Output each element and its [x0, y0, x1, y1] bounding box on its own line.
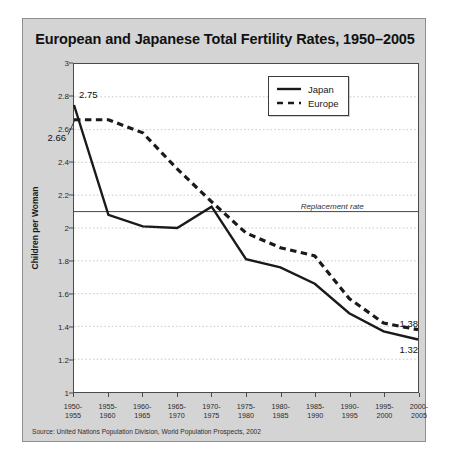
- x-tick-label: 1965-1970: [168, 403, 186, 420]
- series-line-europe: [74, 120, 418, 330]
- y-tick-label: 1.4: [58, 323, 69, 332]
- x-tick-mark: [108, 393, 109, 397]
- x-tick-mark: [384, 393, 385, 397]
- x-axis: 1950-19551955-19601960-19651965-19701970…: [73, 393, 419, 433]
- japan-end-value: 1.32: [400, 344, 419, 355]
- x-tick-label: 2000-2005: [410, 403, 428, 420]
- x-tick-mark: [73, 393, 74, 397]
- chart-figure: European and Japanese Total Fertility Ra…: [22, 18, 426, 442]
- replacement-rate-label: Replacement rate: [301, 202, 364, 211]
- x-tick-mark: [419, 393, 420, 397]
- x-tick-mark: [142, 393, 143, 397]
- plot-svg: [74, 64, 418, 392]
- x-tick-label: 1975-1980: [237, 403, 255, 420]
- series-line-japan: [74, 105, 418, 340]
- x-tick-label: 1995-2000: [375, 403, 393, 420]
- legend-swatch-dashed-icon: [276, 98, 302, 108]
- y-tick-label: 1.6: [58, 290, 69, 299]
- legend-label-europe: Europe: [308, 98, 339, 109]
- x-tick-label: 1955-1960: [98, 403, 116, 420]
- chart-legend: Japan Europe: [268, 76, 349, 116]
- series-lines: [74, 105, 418, 340]
- y-tick-label: 1.2: [58, 356, 69, 365]
- x-tick-label: 1970-1975: [202, 403, 220, 420]
- europe-start-value: 2.66: [48, 132, 67, 143]
- y-tick-label: 1.8: [58, 257, 69, 266]
- x-tick-label: 1980-1985: [271, 403, 289, 420]
- legend-label-japan: Japan: [308, 84, 334, 95]
- y-tick-label: 2.2: [58, 191, 69, 200]
- europe-end-value: 1.38: [400, 318, 419, 329]
- plot-area: Replacement rate 2.752.661.381.32: [73, 63, 419, 393]
- x-tick-label: 1950-1955: [64, 403, 82, 420]
- source-note: Source: United Nations Population Divisi…: [32, 428, 261, 435]
- japan-start-value: 2.75: [79, 89, 98, 100]
- y-tick-label: 2.4: [58, 158, 69, 167]
- x-tick-mark: [281, 393, 282, 397]
- legend-item-japan: Japan: [276, 82, 339, 96]
- y-axis: 11.21.41.61.822.22.42.62.83: [23, 63, 73, 393]
- x-tick-label: 1960-1965: [133, 403, 151, 420]
- chart-title: European and Japanese Total Fertility Ra…: [23, 31, 427, 47]
- x-tick-mark: [177, 393, 178, 397]
- x-tick-label: 1990-1995: [341, 403, 359, 420]
- y-tick-label: 2.8: [58, 92, 69, 101]
- x-tick-mark: [211, 393, 212, 397]
- plot-inner: Replacement rate 2.752.661.381.32: [74, 64, 418, 392]
- x-tick-mark: [246, 393, 247, 397]
- gridlines: [74, 97, 418, 359]
- legend-swatch-solid-icon: [276, 84, 302, 94]
- legend-item-europe: Europe: [276, 96, 339, 110]
- x-tick-mark: [350, 393, 351, 397]
- x-tick-mark: [315, 393, 316, 397]
- x-tick-label: 1985-1990: [306, 403, 324, 420]
